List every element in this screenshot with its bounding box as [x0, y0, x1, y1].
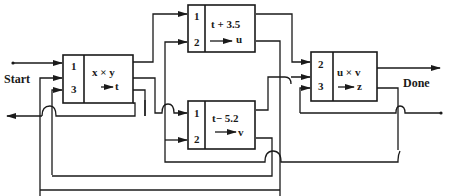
trunk-B2	[165, 42, 187, 130]
right-dot	[439, 111, 442, 114]
block-D-port-2: 2	[318, 58, 324, 70]
block-D-expr: u × v	[337, 66, 360, 78]
block-A-expr: x × y	[92, 66, 115, 78]
feedback-A-port3	[52, 90, 62, 175]
block-A-port-3: 3	[71, 83, 77, 95]
block-B-port-2: 2	[194, 36, 200, 48]
B-out-top	[256, 14, 310, 62]
block-C-port-2: 2	[194, 133, 200, 145]
D-out-z	[377, 88, 398, 150]
block-B-output: u	[236, 33, 242, 45]
block-C-expr: t− 5.2	[212, 112, 238, 124]
block-D-port-3: 3	[318, 80, 324, 92]
start-dot	[11, 61, 14, 64]
block-C-port-1: 1	[194, 107, 200, 119]
start-label: Start	[4, 72, 30, 87]
dataflow-diagram: Start Done 1 3 x × y t 1 2 t + 3.5 u 1 2…	[0, 0, 455, 196]
C-out-top	[256, 77, 310, 110]
block-A-port-1: 1	[71, 60, 77, 72]
D-right-line	[300, 106, 441, 113]
left-output-hop	[42, 103, 135, 116]
A-out-mid	[133, 78, 187, 113]
B-out-low	[256, 41, 280, 196]
block-C-output: v	[238, 126, 244, 138]
D-feedback	[300, 88, 310, 113]
done-label: Done	[403, 76, 430, 91]
block-D-output: z	[357, 80, 362, 92]
block-B-expr: t + 3.5	[211, 18, 240, 30]
block-B-port-1: 1	[194, 10, 200, 22]
A-out-top	[133, 14, 187, 62]
block-A-output: t	[115, 80, 119, 92]
feedback-A-mid	[40, 78, 62, 196]
